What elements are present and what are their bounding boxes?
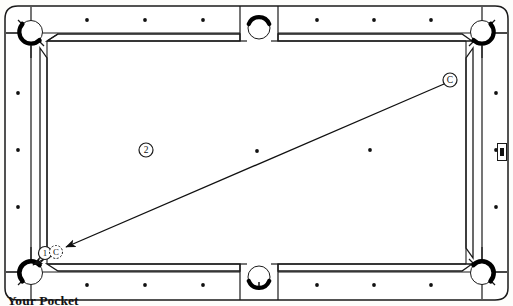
sight-right-0 (494, 91, 498, 95)
table-outer-frame (5, 6, 508, 300)
sight-top-2 (201, 18, 205, 22)
sight-bottom-1 (143, 283, 147, 287)
foot-spot (368, 148, 372, 152)
your-pocket-caption: Your Pocket (7, 294, 79, 306)
right-rail-marker (498, 144, 507, 161)
sight-left-2 (16, 205, 20, 209)
table-drawing: C21C (0, 0, 513, 306)
ball-object-ball-2: 2 (139, 143, 153, 157)
sight-top-5 (429, 18, 433, 22)
sight-left-1 (16, 148, 20, 152)
pocket-bottom-side (248, 266, 270, 290)
sight-bottom-2 (201, 283, 205, 287)
object-ball-2-label: 2 (144, 145, 149, 155)
pocket-bottom-right-corner (471, 261, 494, 284)
pocket-top-left-corner (19, 21, 42, 44)
sight-top-3 (315, 18, 319, 22)
sight-bottom-5 (429, 283, 433, 287)
cue-ball-label: C (447, 75, 453, 85)
ghost-cue-ball-label: C (53, 247, 59, 257)
pocket-bottom-left-corner (19, 261, 42, 284)
sight-top-0 (85, 18, 89, 22)
ball-ghost-cue-ball: C (50, 246, 63, 259)
pool-table-diagram: C21C Your Pocket (0, 0, 513, 306)
sight-left-0 (16, 91, 20, 95)
sight-bottom-3 (315, 283, 319, 287)
object-ball-1-label: 1 (43, 248, 47, 258)
center-spot (255, 149, 259, 153)
sight-bottom-0 (85, 283, 89, 287)
sight-top-1 (143, 18, 147, 22)
sight-right-2 (494, 205, 498, 209)
pocket-top-right-corner (471, 21, 494, 44)
sight-top-4 (372, 18, 376, 22)
pocket-top-side (248, 17, 270, 39)
sight-bottom-4 (372, 283, 376, 287)
ball-cue-ball: C (443, 73, 457, 87)
